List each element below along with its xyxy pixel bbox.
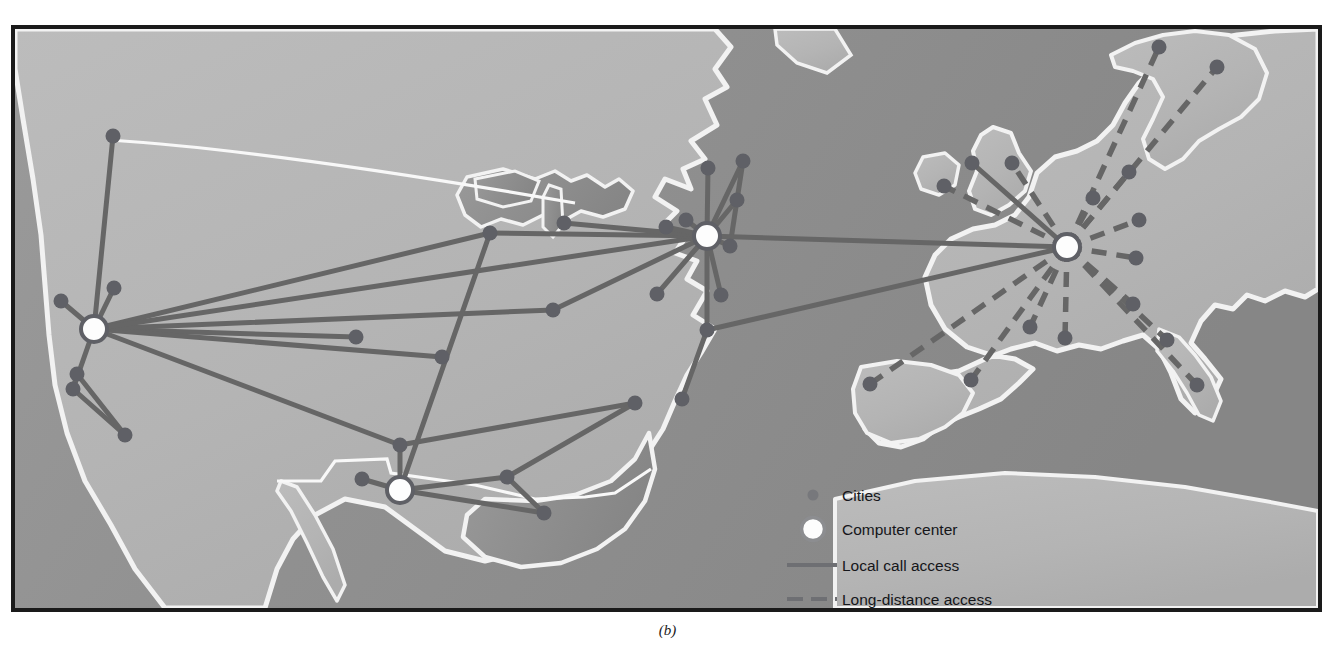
- computer-center-node[interactable]: [387, 477, 413, 503]
- city-node[interactable]: [118, 428, 133, 443]
- city-node[interactable]: [650, 287, 665, 302]
- legend-computer-center-icon: [802, 518, 825, 541]
- city-node[interactable]: [679, 213, 694, 228]
- city-node[interactable]: [1129, 251, 1144, 266]
- network-map-canvas: Cities Computer center Local call access…: [15, 29, 1318, 608]
- legend-cities-label: Cities: [842, 487, 881, 504]
- city-node[interactable]: [393, 438, 408, 453]
- city-node[interactable]: [537, 506, 552, 521]
- city-node[interactable]: [701, 161, 716, 176]
- city-node[interactable]: [964, 373, 979, 388]
- city-node[interactable]: [675, 392, 690, 407]
- city-node[interactable]: [1058, 331, 1073, 346]
- city-node[interactable]: [1190, 378, 1205, 393]
- legend-computer-center-label: Computer center: [842, 521, 957, 538]
- city-node[interactable]: [435, 350, 450, 365]
- city-node[interactable]: [1122, 165, 1137, 180]
- city-node[interactable]: [1132, 213, 1147, 228]
- city-node[interactable]: [1005, 156, 1020, 171]
- figure-caption: (b): [0, 622, 1335, 639]
- city-node[interactable]: [863, 377, 878, 392]
- map-frame: Cities Computer center Local call access…: [11, 25, 1322, 612]
- city-node[interactable]: [1210, 60, 1225, 75]
- city-node[interactable]: [107, 281, 122, 296]
- computer-center-node[interactable]: [81, 316, 107, 342]
- city-node[interactable]: [483, 226, 498, 241]
- city-node[interactable]: [723, 239, 738, 254]
- city-node[interactable]: [736, 154, 751, 169]
- city-node[interactable]: [1023, 320, 1038, 335]
- city-node[interactable]: [965, 156, 980, 171]
- city-node[interactable]: [106, 129, 121, 144]
- computer-center-node[interactable]: [1054, 234, 1080, 260]
- city-node[interactable]: [1086, 191, 1101, 206]
- city-node[interactable]: [628, 396, 643, 411]
- city-node[interactable]: [500, 470, 515, 485]
- city-node[interactable]: [1160, 333, 1175, 348]
- legend-local-access-label: Local call access: [842, 557, 959, 574]
- city-node[interactable]: [355, 472, 370, 487]
- city-node[interactable]: [659, 220, 674, 235]
- city-node[interactable]: [1152, 40, 1167, 55]
- city-node[interactable]: [70, 367, 85, 382]
- figure-page: Cities Computer center Local call access…: [0, 0, 1335, 649]
- city-node[interactable]: [66, 382, 81, 397]
- city-node[interactable]: [54, 294, 69, 309]
- city-node[interactable]: [714, 288, 729, 303]
- city-node[interactable]: [546, 303, 561, 318]
- city-node[interactable]: [730, 193, 745, 208]
- city-node[interactable]: [937, 179, 952, 194]
- city-node[interactable]: [1126, 297, 1141, 312]
- legend-long-distance-access-label: Long-distance access: [842, 591, 992, 608]
- city-node[interactable]: [700, 323, 715, 338]
- city-node[interactable]: [557, 216, 572, 231]
- city-node[interactable]: [349, 330, 364, 345]
- computer-center-node[interactable]: [694, 223, 720, 249]
- legend-cities-icon: [808, 490, 819, 501]
